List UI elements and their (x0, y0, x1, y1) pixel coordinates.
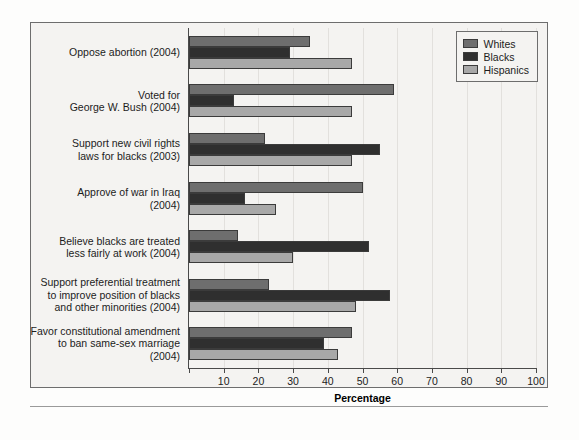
bar (189, 58, 352, 69)
legend-label-whites: Whites (483, 38, 515, 50)
legend-swatch-hispanics (463, 65, 478, 74)
bar (189, 204, 276, 215)
tick-label-20: 20 (253, 375, 265, 387)
gridline-40 (328, 28, 329, 368)
category-label: Voted for George W. Bush (2004) (30, 88, 180, 113)
tick-mark-80 (467, 368, 468, 373)
bar (189, 47, 290, 58)
category-label: Approve of war in Iraq (2004) (30, 186, 180, 211)
tick-mark-90 (501, 368, 502, 373)
tick-mark-60 (397, 368, 398, 373)
bar (189, 106, 352, 117)
category-label: Support preferential treatment to improv… (30, 276, 180, 314)
category-label: Believe blacks are treated less fairly a… (30, 234, 180, 259)
tick-mark-100 (536, 368, 537, 373)
tick-mark-10 (224, 368, 225, 373)
tick-label-80: 80 (461, 375, 473, 387)
tick-label-60: 60 (391, 375, 403, 387)
tick-label-70: 70 (426, 375, 438, 387)
legend-item-whites: Whites (463, 37, 529, 50)
tick-mark-50 (363, 368, 364, 373)
tick-mark-20 (258, 368, 259, 373)
bar (189, 95, 234, 106)
tick-label-90: 90 (495, 375, 507, 387)
tick-mark-40 (328, 368, 329, 373)
x-axis-title: Percentage (188, 392, 537, 404)
tick-mark-70 (432, 368, 433, 373)
bar (189, 36, 310, 47)
legend-item-hispanics: Hispanics (463, 63, 529, 76)
legend-label-blacks: Blacks (483, 51, 514, 63)
legend-label-hispanics: Hispanics (483, 64, 529, 76)
bar (189, 182, 363, 193)
gridline-30 (293, 28, 294, 368)
footer-divider (30, 406, 548, 407)
gridline-60 (397, 28, 398, 368)
bar (189, 279, 269, 290)
bar (189, 155, 352, 166)
bar (189, 133, 265, 144)
chart-figure-frame: 102030405060708090100 Percentage Oppose … (30, 22, 548, 388)
bar (189, 252, 293, 263)
chart-page: 102030405060708090100 Percentage Oppose … (0, 0, 579, 440)
bar (189, 301, 356, 312)
category-label: Oppose abortion (2004) (30, 46, 180, 59)
bar (189, 349, 338, 360)
tick-label-40: 40 (322, 375, 334, 387)
tick-label-50: 50 (357, 375, 369, 387)
category-label: Favor constitutional amendment to ban sa… (30, 325, 180, 363)
legend-swatch-blacks (463, 52, 478, 61)
tick-label-100: 100 (527, 375, 545, 387)
bar (189, 241, 369, 252)
category-label: Support new civil rights laws for blacks… (30, 137, 180, 162)
tick-mark-0 (189, 368, 190, 373)
gridline-70 (432, 28, 433, 368)
bar (189, 84, 394, 95)
gridline-50 (363, 28, 364, 368)
chart-legend: Whites Blacks Hispanics (456, 31, 538, 82)
bar (189, 193, 245, 204)
bar (189, 338, 324, 349)
bar (189, 290, 390, 301)
bar (189, 327, 352, 338)
gridline-20 (258, 28, 259, 368)
legend-item-blacks: Blacks (463, 50, 529, 63)
bar (189, 144, 380, 155)
tick-label-10: 10 (218, 375, 230, 387)
tick-mark-30 (293, 368, 294, 373)
bar (189, 230, 238, 241)
legend-swatch-whites (463, 39, 478, 48)
tick-label-30: 30 (287, 375, 299, 387)
